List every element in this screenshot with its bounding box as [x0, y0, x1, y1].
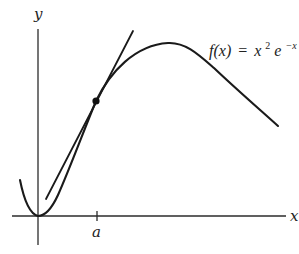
formula-base: x	[253, 42, 261, 59]
function-tangent-diagram: y x a f(x) = x 2 e −x	[0, 0, 299, 254]
y-axis-label: y	[33, 5, 43, 23]
formula-base-e: e	[274, 42, 281, 59]
formula-equals: =	[238, 42, 247, 59]
formula-lhs: f(x)	[209, 42, 231, 60]
x-axis-label: x	[290, 207, 299, 225]
tangency-point	[92, 97, 99, 104]
tick-a-label: a	[92, 223, 101, 241]
formula-exponent-2: 2	[265, 40, 270, 51]
function-formula: f(x) = x 2 e −x	[209, 35, 297, 60]
tangent-line	[46, 31, 133, 199]
function-curve	[20, 43, 278, 216]
formula-exponent-neg-x: −x	[285, 40, 297, 51]
